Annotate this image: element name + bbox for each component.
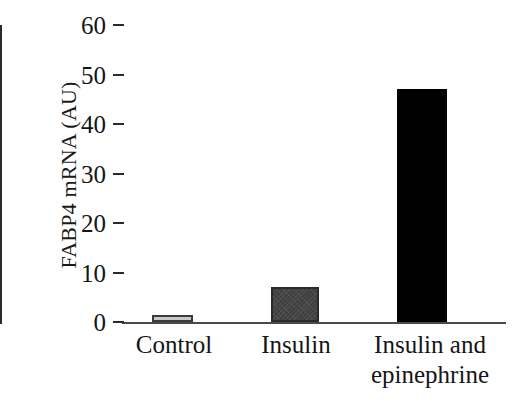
y-axis-tick-mark: [113, 173, 124, 175]
bar-1: [152, 315, 193, 322]
x-axis-category-label: Insulin: [232, 330, 360, 360]
x-axis-baseline: [122, 322, 506, 324]
y-axis-tick-label: 20: [0, 211, 106, 236]
x-axis-category-label: Insulin and epinephrine: [350, 330, 510, 389]
bar-3: [397, 89, 447, 322]
y-axis-tick-label: 40: [0, 112, 106, 137]
bar-chart-figure: FABP4 mRNA (AU) 0102030405060 ControlIns…: [0, 0, 523, 416]
y-axis-tick-mark: [113, 321, 124, 323]
y-axis-tick-label: 0: [0, 310, 106, 335]
y-axis-tick-label: 60: [0, 13, 106, 38]
y-axis-tick-mark: [113, 123, 124, 125]
y-axis-tick-mark: [113, 272, 124, 274]
y-axis-tick-mark: [113, 222, 124, 224]
y-axis-tick-label: 10: [0, 260, 106, 285]
y-axis-tick-label: 30: [0, 161, 106, 186]
y-axis-tick-label: 50: [0, 62, 106, 87]
y-axis-tick-mark: [113, 74, 124, 76]
bar-2: [271, 287, 319, 322]
x-axis-category-label: Control: [110, 330, 238, 360]
y-axis-tick-mark: [113, 24, 124, 26]
